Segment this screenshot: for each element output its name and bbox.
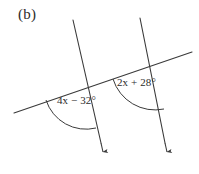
geometry-figure: (b) 4x − 32° 2x + 28° bbox=[0, 0, 199, 174]
left-parallel-line bbox=[73, 20, 101, 143]
geometry-diagram-svg bbox=[0, 0, 199, 174]
transversal-line bbox=[14, 52, 192, 113]
figure-label: (b) bbox=[18, 6, 36, 23]
angle-label-left: 4x − 32° bbox=[57, 94, 96, 106]
right-line-arrowhead bbox=[165, 143, 167, 152]
angle-label-right: 2x + 28° bbox=[117, 76, 156, 88]
left-line-arrowhead bbox=[101, 143, 103, 152]
